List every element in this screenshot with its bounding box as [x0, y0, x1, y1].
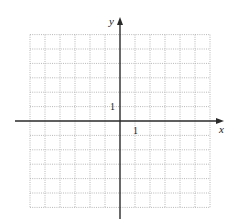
x-tick-label: 1: [133, 125, 138, 136]
x-axis-label: x: [218, 123, 224, 135]
coordinate-plane: x y 1 1: [0, 0, 230, 219]
y-axis-label: y: [108, 15, 114, 27]
y-tick-label: 1: [110, 101, 115, 112]
y-axis-arrow-icon: [117, 17, 123, 25]
